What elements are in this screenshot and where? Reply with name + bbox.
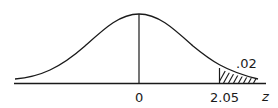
label-tail-area: .02	[236, 57, 257, 70]
label-z-axis: z	[262, 90, 269, 103]
normal-curve	[15, 14, 258, 79]
normal-curve-figure: 0 2.05 z .02	[0, 0, 278, 108]
label-zero: 0	[135, 91, 143, 104]
label-critical-value: 2.05	[210, 91, 239, 104]
